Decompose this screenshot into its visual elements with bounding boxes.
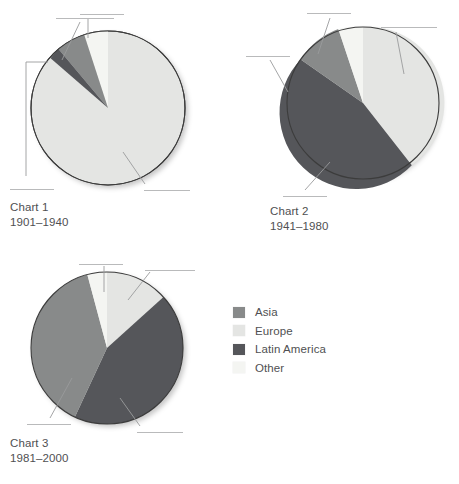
chart-1-period: 1901–1940	[10, 215, 68, 230]
legend-swatch-europe	[233, 325, 245, 336]
label-blank	[137, 432, 183, 433]
label-blank	[246, 56, 290, 57]
chart-block-2: Chart 2 1941–1980	[230, 0, 459, 240]
leader-line	[270, 60, 288, 92]
legend-label-europe: Europe	[255, 325, 293, 337]
chart-3-period: 1981–2000	[10, 451, 68, 466]
legend-swatch-latin-america	[233, 344, 245, 355]
chart-3-title: Chart 3	[10, 436, 68, 451]
pie-chart-figure: Chart 1 1901–1940	[0, 0, 459, 484]
legend-item-latin-america: Latin America	[233, 340, 326, 359]
legend-label-other: Other	[255, 362, 284, 374]
chart-block-1: Chart 1 1901–1940	[0, 0, 230, 240]
pie-chart-2	[230, 0, 459, 200]
chart-1-caption: Chart 1 1901–1940	[10, 200, 68, 230]
legend-label-latin-america: Latin America	[255, 343, 326, 355]
label-blank	[10, 189, 54, 190]
label-blank	[80, 14, 124, 15]
chart-1-title: Chart 1	[10, 200, 68, 215]
label-blank	[144, 190, 190, 191]
chart-2-title: Chart 2	[270, 204, 328, 219]
legend-swatch-asia	[233, 307, 245, 318]
chart-legend: Asia Europe Latin America Other	[233, 303, 326, 377]
pie-3-svg	[0, 240, 230, 440]
legend-label-asia: Asia	[255, 306, 278, 318]
pie-chart-3	[0, 240, 230, 440]
legend-item-europe: Europe	[233, 322, 326, 341]
legend-item-asia: Asia	[233, 303, 326, 322]
label-blank	[27, 424, 71, 425]
chart-block-3: Chart 3 1981–2000	[0, 240, 230, 484]
label-blank	[283, 196, 327, 197]
label-blank	[381, 27, 437, 28]
chart-2-caption: Chart 2 1941–1980	[270, 204, 328, 234]
label-blank	[79, 264, 123, 265]
label-blank	[56, 18, 114, 19]
label-blank	[307, 13, 351, 14]
pie-1-svg	[0, 0, 230, 200]
chart-3-caption: Chart 3 1981–2000	[10, 436, 68, 466]
label-blank	[145, 270, 195, 271]
pie-2-svg	[230, 0, 459, 200]
legend-item-other: Other	[233, 359, 326, 378]
chart-2-period: 1941–1980	[270, 219, 328, 234]
legend-swatch-other	[233, 362, 245, 373]
pie-chart-1	[0, 0, 230, 200]
